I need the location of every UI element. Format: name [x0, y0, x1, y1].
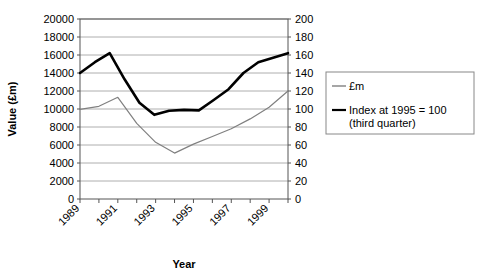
y-tick-label-left: 4000	[50, 157, 74, 169]
y-axis-title: Value (£m)	[6, 81, 18, 136]
legend-label-1b: (third quarter)	[349, 117, 416, 129]
y-tick-label-right: 120	[295, 85, 313, 97]
y-tick-label-left: 18000	[43, 31, 74, 43]
x-tick-label: 1997	[207, 202, 233, 228]
y-tick-label-left: 14000	[43, 67, 74, 79]
x-tick-label: 1989	[56, 202, 82, 228]
y-tick-label-left: 16000	[43, 49, 74, 61]
series-line-0	[80, 91, 288, 153]
x-tick-label: 1995	[169, 202, 195, 228]
y-tick-label-right: 200	[295, 13, 313, 25]
x-tick-label: 1991	[93, 202, 119, 228]
legend-label-0: £m	[349, 80, 364, 92]
y-tick-label-right: 20	[295, 175, 307, 187]
x-axis-title: Year	[172, 258, 196, 270]
y-tick-label-left: 12000	[43, 85, 74, 97]
y-tick-label-right: 0	[295, 193, 301, 205]
y-tick-label-left: 20000	[43, 13, 74, 25]
chart-svg: 0200040006000800010000120001400016000180…	[0, 0, 480, 275]
y-tick-label-left: 2000	[50, 175, 74, 187]
y-tick-label-right: 140	[295, 67, 313, 79]
y-tick-label-right: 180	[295, 31, 313, 43]
y-tick-label-left: 6000	[50, 139, 74, 151]
y-tick-label-right: 100	[295, 103, 313, 115]
y-tick-label-right: 160	[295, 49, 313, 61]
y-tick-label-left: 8000	[50, 121, 74, 133]
y-tick-label-right: 80	[295, 121, 307, 133]
series-line-1	[80, 53, 288, 115]
chart-figure: 0200040006000800010000120001400016000180…	[0, 0, 480, 275]
y-tick-label-right: 40	[295, 157, 307, 169]
x-tick-label: 1999	[245, 202, 271, 228]
legend-label-1: Index at 1995 = 100	[349, 104, 447, 116]
y-tick-label-left: 10000	[43, 103, 74, 115]
y-tick-label-right: 60	[295, 139, 307, 151]
x-tick-label: 1993	[131, 202, 157, 228]
